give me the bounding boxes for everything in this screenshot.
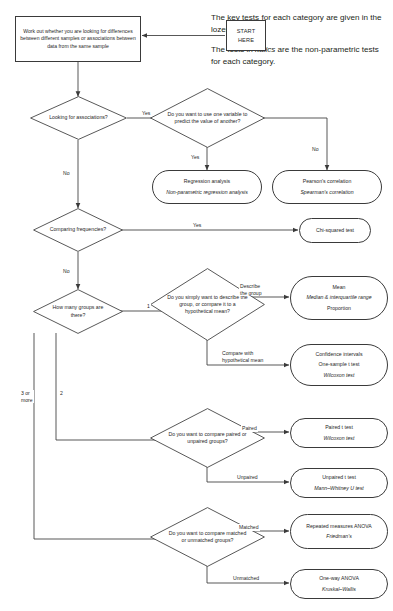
lozenge-unpaired-tests: Unpaired t test Mann–Whitney U test <box>290 468 388 498</box>
edge-label-frequencies-no: No <box>62 268 71 275</box>
lozenge-hypothetical-mean: Confidence intervals One-sample t test W… <box>290 344 388 386</box>
lozenge-regression: Regression analysis Non-parametric regre… <box>152 170 262 204</box>
decision-comparing-frequencies[interactable]: Comparing frequencies? <box>33 208 123 252</box>
edge-label-associations-no: No <box>62 170 71 177</box>
lozenge-line: Paired t test <box>325 424 353 431</box>
edge-label-compare-hypothetical-mean: Compare with hypothetical mean <box>221 350 264 363</box>
lozenge-line: Repeated measures ANOVA <box>306 523 372 530</box>
decision-label: How many groups are there? <box>46 304 111 319</box>
lozenge-correlation: Pearson's correlation Spearman's correla… <box>272 170 382 204</box>
edge-label-groups-two: 2 <box>59 390 64 397</box>
lozenge-line-italic: Wilcoxon test <box>324 435 355 442</box>
edge-label-predict-no: No <box>311 146 320 153</box>
decision-label: Do you want to compare matched or unmatc… <box>166 530 249 545</box>
lozenge-line: Mean <box>333 284 346 291</box>
lozenge-line: Chi-squared test <box>316 227 354 234</box>
edge-label-unmatched: Unmatched <box>232 575 260 582</box>
lozenge-line: One-way ANOVA <box>319 575 359 582</box>
lozenge-line: Confidence intervals <box>315 351 362 358</box>
edge-label-associations-yes: Yes <box>141 110 151 117</box>
lozenge-paired-tests: Paired t test Wilcoxon test <box>290 418 388 448</box>
decision-describe-or-compare[interactable]: Do you simply want to describe the group… <box>150 268 265 341</box>
edge-label-describe-the-group: Describe the group <box>239 283 263 296</box>
start-here-node[interactable]: START HERE <box>226 20 266 51</box>
lozenge-line-italic: Spearman's correlation <box>300 189 353 196</box>
lozenge-line: Pearson's correlation <box>303 178 352 185</box>
lozenge-line-italic: Friedman's <box>326 533 352 540</box>
lozenge-line-italic: Kruskal–Wallis <box>322 586 356 593</box>
decision-label: Do you want to compare paired or unpaire… <box>166 431 249 446</box>
lozenge-matched-tests: Repeated measures ANOVA Friedman's <box>290 514 388 549</box>
lozenge-line-italic: Mann–Whitney U test <box>314 485 364 492</box>
lozenge-line: One-sample t test <box>319 361 360 368</box>
decision-matched-or-unmatched[interactable]: Do you want to compare matched or unmatc… <box>150 507 265 567</box>
lozenge-chi-squared: Chi-squared test <box>299 218 371 243</box>
lozenge-line: Proportion <box>327 305 351 312</box>
lozenge-line-italic: Median & interquartile range <box>306 294 371 301</box>
decision-label: Do you want to use one variable to predi… <box>166 111 249 126</box>
edge-label-paired: Paired <box>241 425 258 432</box>
flowchart-canvas: The key tests for each category are give… <box>0 0 393 611</box>
decision-how-many-groups[interactable]: How many groups are there? <box>33 289 123 334</box>
lozenge-line: Regression analysis <box>184 178 230 185</box>
lozenge-unmatched-tests: One-way ANOVA Kruskal–Wallis <box>290 569 388 599</box>
lozenge-line: Unpaired t test <box>322 474 356 481</box>
decision-label: Looking for associations? <box>44 114 114 121</box>
lozenge-describe-group: Mean Median & interquartile range Propor… <box>290 276 388 320</box>
decision-label: Do you simply want to describe the group… <box>166 294 249 316</box>
decision-paired-or-unpaired[interactable]: Do you want to compare paired or unpaire… <box>150 408 265 468</box>
decision-label: Comparing frequencies? <box>46 226 111 233</box>
decision-predict-variable[interactable]: Do you want to use one variable to predi… <box>150 88 265 148</box>
lozenge-line-italic: Wilcoxon test <box>324 372 355 379</box>
edge-label-frequencies-yes: Yes <box>192 222 202 229</box>
edge-label-groups-one: 1 <box>146 303 151 310</box>
lozenge-line-italic: Non-parametric regression analysis <box>166 189 248 196</box>
decision-looking-for-associations[interactable]: Looking for associations? <box>30 96 127 140</box>
edge-label-predict-yes: Yes <box>190 154 200 161</box>
intro-instruction-box: Work out whether you are looking for dif… <box>15 16 141 62</box>
edge-label-groups-three-or-more: 3 or more <box>20 390 34 403</box>
edge-label-matched: Matched <box>238 524 260 531</box>
edge-label-unpaired: Unpaired <box>236 474 259 481</box>
